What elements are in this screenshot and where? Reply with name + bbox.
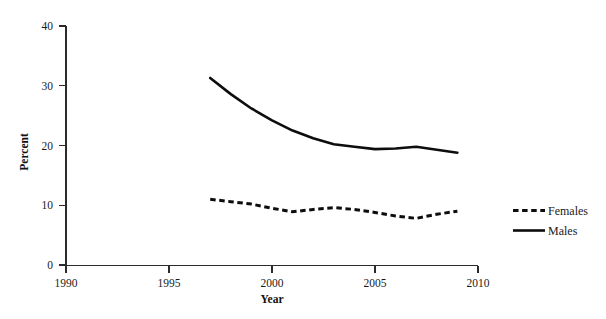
y-tick-label-10: 10 bbox=[42, 199, 54, 211]
line-chart: 40 30 20 10 0 1990 1995 2000 2005 2010 P… bbox=[0, 0, 606, 319]
x-tick-label-2010: 2010 bbox=[467, 277, 490, 289]
y-tick-label-30: 30 bbox=[42, 80, 54, 92]
y-tick-label-40: 40 bbox=[42, 20, 54, 32]
x-tick-label-1990: 1990 bbox=[55, 277, 78, 289]
series-line-females bbox=[210, 199, 457, 218]
legend-label-females: Females bbox=[548, 204, 588, 218]
chart-legend: Females Males bbox=[513, 204, 588, 238]
series-line-males bbox=[210, 78, 457, 153]
chart-canvas: 40 30 20 10 0 1990 1995 2000 2005 2010 P… bbox=[0, 0, 606, 319]
y-axis-ticks bbox=[59, 26, 66, 265]
y-tick-label-0: 0 bbox=[47, 259, 53, 271]
x-tick-label-1995: 1995 bbox=[158, 277, 181, 289]
y-tick-label-20: 20 bbox=[42, 140, 54, 152]
y-axis-title: Percent bbox=[18, 133, 30, 171]
x-tick-label-2000: 2000 bbox=[261, 277, 284, 289]
x-axis-title: Year bbox=[261, 293, 284, 305]
x-tick-label-2005: 2005 bbox=[364, 277, 387, 289]
legend-label-males: Males bbox=[548, 224, 578, 238]
x-axis-ticks bbox=[66, 266, 478, 274]
